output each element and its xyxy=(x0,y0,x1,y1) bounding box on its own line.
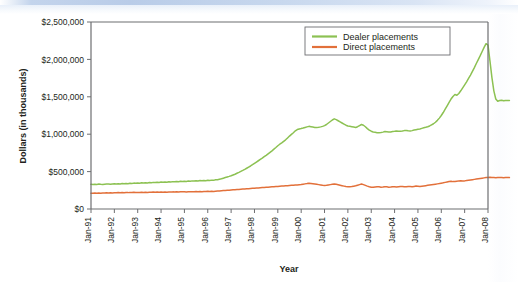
x-tick-label-2: Jan-93 xyxy=(130,217,140,243)
chart-legend: Dealer placements Direct placements xyxy=(305,27,450,55)
x-tick-label-11: Jan-02 xyxy=(340,217,350,243)
y-tick-label-1: $500,000 xyxy=(49,167,85,177)
x-tick-label-4: Jan-95 xyxy=(176,217,186,243)
x-axis-title: Year xyxy=(279,264,299,274)
y-tick-label-2: $1,000,000 xyxy=(41,129,84,139)
x-tick-label-10: Jan-01 xyxy=(317,217,327,243)
line-chart: $0$500,000$1,000,000$1,500,000$2,000,000… xyxy=(0,0,518,282)
x-tick-label-5: Jan-96 xyxy=(200,217,210,243)
x-tick-label-12: Jan-03 xyxy=(363,217,373,243)
x-tick-label-6: Jan-97 xyxy=(223,217,233,243)
y-tick-label-3: $1,500,000 xyxy=(41,92,84,102)
y-tick-label-4: $2,000,000 xyxy=(41,55,84,65)
y-tick-label-0: $0 xyxy=(75,204,85,214)
y-axis-title: Dollars (in thousands) xyxy=(18,68,28,163)
x-tick-label-17: Jan-08 xyxy=(480,217,490,243)
x-tick-label-13: Jan-04 xyxy=(387,217,397,243)
x-tick-label-16: Jan-07 xyxy=(457,217,467,243)
x-tick-label-14: Jan-05 xyxy=(410,217,420,243)
x-tick-label-9: Jan-00 xyxy=(293,217,303,243)
x-tick-label-15: Jan-06 xyxy=(433,217,443,243)
legend-label-dealer-placements: Dealer placements xyxy=(343,32,419,42)
x-tick-label-1: Jan-92 xyxy=(106,217,116,243)
x-tick-label-0: Jan-91 xyxy=(83,217,93,243)
x-tick-label-7: Jan-98 xyxy=(246,217,256,243)
legend-label-direct-placements: Direct placements xyxy=(343,42,416,52)
chart-figure: $0$500,000$1,000,000$1,500,000$2,000,000… xyxy=(0,0,518,282)
x-tick-label-3: Jan-94 xyxy=(153,217,163,243)
y-tick-label-5: $2,500,000 xyxy=(41,17,84,27)
x-tick-label-8: Jan-99 xyxy=(270,217,280,243)
